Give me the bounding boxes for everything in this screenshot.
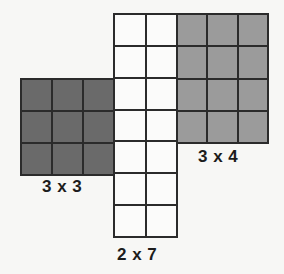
grid-cell [115, 47, 147, 79]
grid-cell [147, 15, 179, 47]
grid-cell [115, 142, 147, 174]
grid-cell [239, 80, 269, 112]
grid-cell [84, 80, 115, 112]
grid-cell [22, 112, 53, 144]
grid-cell [178, 15, 208, 47]
grid-cell [84, 112, 115, 144]
grid-cell [115, 206, 147, 238]
grid-cell [147, 206, 179, 238]
grid-cell [208, 80, 238, 112]
grid-cell [147, 174, 179, 206]
grid-cell [178, 80, 208, 112]
grid-cell [115, 111, 147, 143]
grid-cell [208, 112, 238, 144]
grid-3x3-dark [20, 78, 115, 176]
grid-3x4-gray [178, 13, 269, 144]
grid-cell [84, 144, 115, 176]
grid-cell [147, 47, 179, 79]
grid-cell [115, 79, 147, 111]
grid-cell [178, 47, 208, 79]
grid-cell [115, 174, 147, 206]
grid-cell [53, 144, 84, 176]
label-grid-2x7: 2 x 7 [117, 245, 157, 265]
grid-cell [239, 47, 269, 79]
grid-figure: 3 x 3 3 x 4 2 x 7 [0, 0, 284, 274]
grid-cell [147, 111, 179, 143]
grid-cell [53, 80, 84, 112]
grid-cell [147, 142, 179, 174]
grid-cell [22, 80, 53, 112]
grid-cell [178, 112, 208, 144]
grid-cell [239, 15, 269, 47]
grid-cell [208, 15, 238, 47]
grid-cell [22, 144, 53, 176]
grid-cell [53, 112, 84, 144]
label-grid-3x3: 3 x 3 [42, 177, 82, 197]
label-grid-3x4: 3 x 4 [198, 147, 238, 167]
grid-2x7-white [113, 13, 178, 238]
grid-cell [147, 79, 179, 111]
grid-cell [115, 15, 147, 47]
grid-cell [239, 112, 269, 144]
grid-cell [208, 47, 238, 79]
